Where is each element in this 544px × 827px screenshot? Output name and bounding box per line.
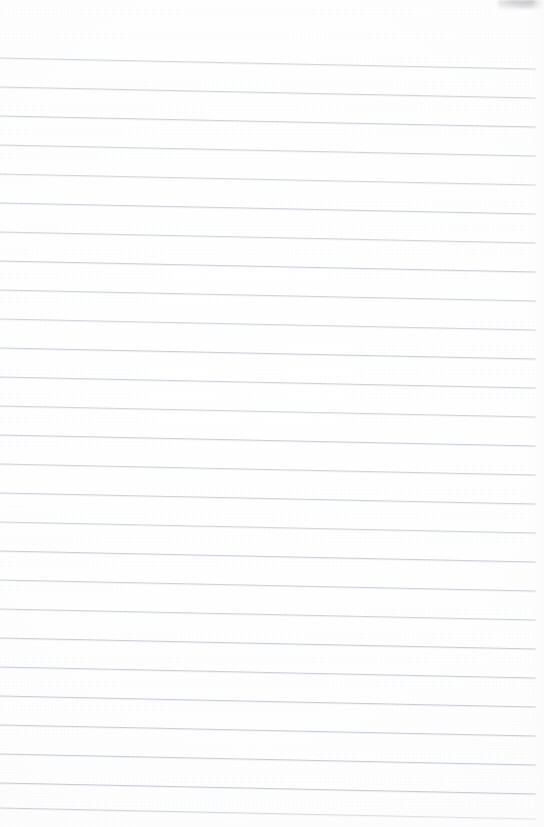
rule-line-halo bbox=[0, 378, 536, 389]
rule-line bbox=[0, 116, 536, 127]
rule-line-halo bbox=[0, 320, 536, 331]
rule-line bbox=[0, 348, 536, 359]
rule-line bbox=[0, 754, 536, 765]
rule-line-halo bbox=[0, 291, 536, 302]
rule-line bbox=[0, 203, 536, 214]
rule-line-halo bbox=[0, 204, 536, 215]
rule-line bbox=[0, 493, 536, 504]
ruled-lines-layer bbox=[0, 0, 544, 827]
rule-line-halo bbox=[0, 146, 536, 157]
rule-line-halo bbox=[0, 726, 536, 737]
rule-line bbox=[0, 58, 536, 69]
scanned-notebook-page: Blank ruled notebook page bbox=[0, 0, 544, 827]
rule-line-halo bbox=[0, 697, 536, 708]
rule-line bbox=[0, 667, 536, 678]
rule-line bbox=[0, 145, 536, 156]
rule-line-halo bbox=[0, 175, 536, 186]
rule-line-halo bbox=[0, 407, 536, 418]
rule-line-halo bbox=[0, 809, 536, 820]
rule-line bbox=[0, 609, 536, 620]
rule-line bbox=[0, 580, 536, 591]
rule-line bbox=[0, 406, 536, 417]
rule-line bbox=[0, 319, 536, 330]
rule-line bbox=[0, 87, 536, 98]
rule-line-halo bbox=[0, 59, 536, 70]
rule-line bbox=[0, 551, 536, 562]
rule-line-halo bbox=[0, 552, 536, 563]
rule-line bbox=[0, 725, 536, 736]
rule-line-halo bbox=[0, 639, 536, 650]
rule-line bbox=[0, 464, 536, 475]
rule-line-halo bbox=[0, 668, 536, 679]
ruled-lines-svg bbox=[0, 0, 544, 827]
rule-line bbox=[0, 174, 536, 185]
rule-line-halo bbox=[0, 523, 536, 534]
rule-line-halo bbox=[0, 436, 536, 447]
rule-line-halo bbox=[0, 494, 536, 505]
rule-line-group bbox=[0, 58, 536, 820]
rule-line bbox=[0, 783, 536, 794]
rule-line bbox=[0, 232, 536, 243]
rule-line bbox=[0, 638, 536, 649]
rule-line-halo bbox=[0, 349, 536, 360]
rule-line-halo bbox=[0, 88, 536, 99]
rule-line-halo bbox=[0, 755, 536, 766]
rule-line-halo bbox=[0, 610, 536, 621]
rule-line bbox=[0, 808, 536, 819]
rule-line-halo bbox=[0, 465, 536, 476]
rule-line-halo bbox=[0, 262, 536, 273]
rule-line bbox=[0, 522, 536, 533]
rule-line-halo bbox=[0, 581, 536, 592]
rule-line bbox=[0, 696, 536, 707]
rule-line-halo bbox=[0, 233, 536, 244]
rule-line bbox=[0, 377, 536, 388]
rule-line-halo bbox=[0, 784, 536, 795]
rule-line bbox=[0, 435, 536, 446]
rule-line bbox=[0, 290, 536, 301]
rule-line-halo bbox=[0, 117, 536, 128]
rule-line bbox=[0, 261, 536, 272]
